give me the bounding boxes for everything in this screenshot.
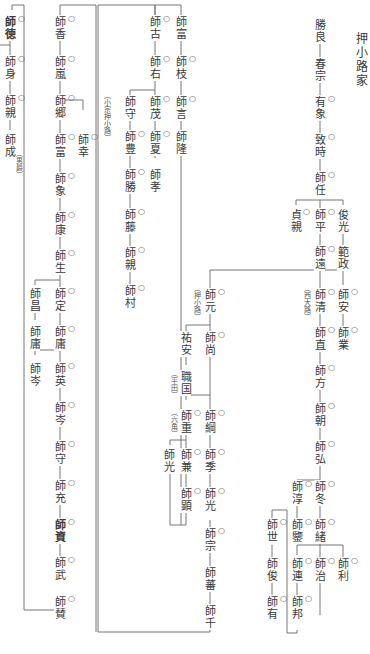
person-node: 祐安	[180, 331, 191, 357]
person-node: 師清	[314, 288, 325, 314]
circle-mark-icon: ○	[328, 208, 335, 216]
person-node: 師富	[54, 133, 65, 159]
person-node: 師隆	[175, 130, 186, 156]
genealogy-chart: 押小路家 勝良 春宗 有象 ○ 致時 ○ 師任 ○ 貞親 ○ 師平 ○ 俊光 師…	[0, 0, 370, 654]
person-node: 師尚	[204, 331, 215, 357]
circle-mark-icon: ○	[163, 55, 170, 63]
person-node: 師茂	[149, 95, 160, 121]
person-node: 師賛	[54, 595, 65, 621]
person-node: 師香	[54, 15, 65, 41]
circle-mark-icon: ○	[328, 133, 335, 141]
person-node: 師鑒	[291, 518, 302, 544]
circle-mark-icon: ○	[328, 557, 335, 565]
circle-mark-icon: ○	[351, 557, 358, 565]
person-node: 師枝	[175, 55, 186, 81]
circle-mark-icon: ○	[218, 487, 225, 495]
person-node: 師元	[204, 288, 215, 314]
person-node: 勝良	[314, 18, 325, 44]
circle-mark-icon: ○	[68, 595, 75, 603]
house-note: （押小路）	[193, 285, 201, 320]
person-node: 春宗	[314, 57, 325, 83]
person-node: 師富	[175, 15, 186, 41]
circle-mark-icon: ○	[328, 326, 335, 334]
person-node: 師光	[163, 448, 174, 474]
person-node: 師光	[204, 487, 215, 513]
house-note: （男爵）	[15, 150, 23, 178]
circle-mark-icon: ○	[68, 172, 75, 180]
circle-mark-icon: ○	[194, 487, 201, 495]
person-node: 師世	[266, 518, 277, 544]
person-node: 師有	[266, 595, 277, 621]
person-node: 師藤	[124, 208, 135, 234]
person-node: 師郷	[54, 94, 65, 120]
circle-mark-icon: ○	[189, 95, 196, 103]
person-node: 俊光	[337, 208, 348, 234]
person-node: 致時	[314, 133, 325, 159]
person-node: 師徳	[4, 15, 15, 41]
person-node: 師守	[124, 95, 135, 121]
circle-mark-icon: ○	[303, 208, 310, 216]
person-node: 師勝	[124, 168, 135, 194]
circle-mark-icon: ○	[328, 245, 335, 253]
person-node: 師直	[314, 326, 325, 352]
person-node: 師康	[54, 211, 65, 237]
circle-mark-icon: ○	[68, 401, 75, 409]
circle-mark-icon: ○	[68, 556, 75, 564]
person-node: 師俊	[266, 557, 277, 583]
person-node: 師平	[314, 208, 325, 234]
person-node: 師充	[54, 479, 65, 505]
circle-mark-icon: ○	[305, 480, 312, 488]
circle-mark-icon: ○	[351, 326, 358, 334]
person-node: 職国	[180, 370, 191, 396]
circle-mark-icon: ○	[68, 362, 75, 370]
circle-mark-icon: ○	[68, 94, 75, 102]
person-node: 師弘	[314, 440, 325, 466]
person-node: 師豊	[124, 130, 135, 156]
circle-mark-icon: ○	[328, 288, 335, 296]
circle-mark-icon: ○	[218, 527, 225, 535]
person-node: 師冬	[314, 480, 325, 506]
circle-mark-icon: ○	[328, 480, 335, 488]
person-node: 師武	[54, 556, 65, 582]
circle-mark-icon: ○	[138, 246, 145, 254]
circle-mark-icon: ○	[218, 331, 225, 339]
circle-mark-icon: ○	[328, 364, 335, 372]
person-node: 師蕃	[204, 566, 215, 592]
person-node: 師重	[180, 409, 191, 435]
person-node: 師治	[314, 557, 325, 583]
circle-mark-icon: ○	[218, 409, 225, 417]
circle-mark-icon: ○	[68, 440, 75, 448]
person-node: 師親	[124, 246, 135, 272]
person-node: 師綱	[204, 409, 215, 435]
person-node: 師英	[54, 362, 65, 388]
circle-mark-icon: ○	[163, 95, 170, 103]
person-node: 師昌	[29, 287, 40, 313]
person-node: 師方	[314, 364, 325, 390]
circle-mark-icon: ○	[68, 325, 75, 333]
circle-mark-icon: ○	[328, 518, 335, 526]
person-node: 師幸	[77, 133, 88, 159]
person-node: 師身	[4, 55, 15, 81]
circle-mark-icon: ○	[328, 402, 335, 410]
person-node: 師遠	[314, 245, 325, 271]
circle-mark-icon: ○	[351, 288, 358, 296]
circle-mark-icon: ○	[68, 479, 75, 487]
circle-mark-icon: ○	[218, 288, 225, 296]
person-node: 師季	[204, 448, 215, 474]
circle-mark-icon: ○	[305, 595, 312, 603]
person-node: 師資	[54, 518, 65, 544]
person-node: 師兼	[180, 448, 191, 474]
circle-mark-icon: ○	[138, 208, 145, 216]
circle-mark-icon: ○	[68, 211, 75, 219]
person-node: 師宗	[204, 527, 215, 553]
person-node: 師利	[337, 557, 348, 583]
person-node: 師右	[149, 55, 160, 81]
circle-mark-icon: ○	[138, 168, 145, 176]
person-node: 師緒	[314, 518, 325, 544]
circle-mark-icon: ○	[194, 448, 201, 456]
house-note: （西大路）	[303, 285, 311, 320]
house-note: （小宗押小路）	[103, 92, 111, 141]
circle-mark-icon: ○	[328, 440, 335, 448]
circle-mark-icon: ○	[68, 518, 75, 526]
circle-mark-icon: ○	[305, 557, 312, 565]
